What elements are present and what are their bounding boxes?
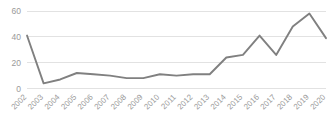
y-axis-tick-label: 0 xyxy=(16,84,21,94)
y-axis-tick-label: 40 xyxy=(12,32,22,42)
x-axis-tick-labels: 2002200320042005200620072008200920102011… xyxy=(9,92,327,111)
x-axis-tick-label: 2003 xyxy=(26,92,45,111)
x-axis-tick-label: 2009 xyxy=(126,92,145,111)
data-series xyxy=(27,14,326,84)
x-axis-tick-label: 2016 xyxy=(242,92,261,111)
x-axis-tick-label: 2010 xyxy=(142,92,161,111)
x-axis-tick-label: 2018 xyxy=(275,92,294,111)
x-axis-tick-label: 2006 xyxy=(76,92,95,111)
x-axis-tick-label: 2014 xyxy=(209,92,228,111)
x-axis-tick-label: 2017 xyxy=(259,92,278,111)
series-line xyxy=(27,14,326,84)
chart-canvas: 0204060 20022003200420052006200720082009… xyxy=(0,0,333,124)
x-axis-tick-label: 2008 xyxy=(109,92,128,111)
x-axis-tick-label: 2004 xyxy=(43,92,62,111)
x-axis-tick-label: 2007 xyxy=(93,92,112,111)
x-axis-tick-label: 2002 xyxy=(9,92,28,111)
y-axis-tick-labels: 0204060 xyxy=(12,6,22,94)
x-axis-tick-label: 2015 xyxy=(225,92,244,111)
x-axis-tick-label: 2013 xyxy=(192,92,211,111)
x-axis-tick-label: 2019 xyxy=(292,92,311,111)
x-axis-tick-label: 2011 xyxy=(159,92,178,111)
y-axis-tick-label: 60 xyxy=(12,6,22,16)
gridlines xyxy=(27,11,326,89)
y-axis-tick-label: 20 xyxy=(12,58,22,68)
x-axis-tick-label: 2005 xyxy=(59,92,78,111)
x-axis-tick-label: 2012 xyxy=(176,92,195,111)
x-axis-tick-label: 2020 xyxy=(308,92,327,111)
line-chart: 0204060 20022003200420052006200720082009… xyxy=(0,0,333,124)
